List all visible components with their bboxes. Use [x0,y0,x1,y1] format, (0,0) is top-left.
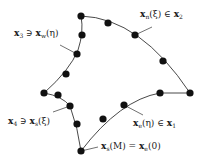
argument: (ξ) [38,116,50,126]
node-corner-right [186,89,193,96]
node-east-2 [120,101,127,108]
subscript: 1 [172,122,176,129]
node-south-1 [73,120,80,127]
relation: ∈ [161,9,173,19]
argument: (0) [148,141,161,151]
label-corner-point: xs(M) = xe(0) [101,142,161,152]
node-east-3 [99,115,106,122]
relation: = [126,141,139,151]
boundary-nodes [40,12,193,154]
argument: (ξ) [149,9,161,19]
node-west-1 [62,70,69,77]
subscript: 2 [179,13,183,20]
label-south-boundary: x4 ∋ xs(ξ) [8,117,50,127]
argument: (M) [109,141,125,151]
node-corner-bottom [77,147,84,154]
argument: (η) [46,28,58,38]
boundary-curve-north [81,16,190,93]
node-east-1 [156,89,163,96]
relation: ∋ [17,116,29,126]
node-north-2 [131,31,138,38]
node-corner-left [40,89,47,96]
relation: ∈ [154,118,166,128]
node-west-3 [78,31,85,38]
node-north-1 [104,19,111,26]
node-north-3 [159,57,166,64]
label-west-boundary: x3 ∋ xw(η) [14,29,59,39]
node-corner-top [77,12,84,19]
label-north-boundary: xn(ξ) ∈ x2 [140,10,183,20]
node-west-2 [73,50,80,57]
argument: (η) [142,118,154,128]
label-east-boundary: xe(η) ∈ x1 [133,119,176,129]
node-south-2 [66,102,73,109]
relation: ∋ [23,28,35,38]
node-south-3 [54,91,61,98]
